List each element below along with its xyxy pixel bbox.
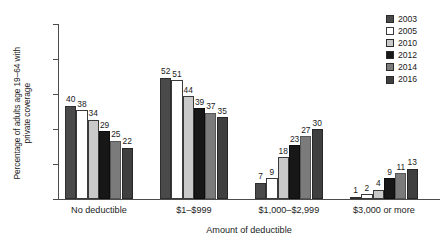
bar-group: 403834292522 (65, 24, 133, 199)
legend-label: 2012 (398, 51, 417, 60)
y-axis-tick (53, 199, 58, 200)
y-axis-title: Percentage of adults age 19–64 with priv… (12, 22, 32, 204)
bar (373, 190, 384, 199)
legend-swatch-icon (386, 27, 394, 35)
bar-value-label: 44 (175, 86, 201, 94)
legend-swatch-icon (386, 76, 394, 84)
legend-item[interactable]: 2012 (386, 49, 417, 61)
bar (255, 183, 266, 199)
bar (312, 129, 323, 199)
legend-item[interactable]: 2014 (386, 61, 417, 73)
bar (122, 148, 133, 199)
legend-label: 2014 (398, 63, 417, 72)
legend-swatch-icon (386, 15, 394, 23)
bar (88, 120, 99, 199)
bar (300, 136, 311, 199)
legend-label: 2005 (398, 27, 417, 36)
y-axis-tick (53, 59, 58, 60)
bar (194, 108, 205, 199)
legend-item[interactable]: 2003 (386, 13, 417, 25)
bar-value-label: 29 (92, 121, 118, 129)
legend-swatch-icon (386, 63, 394, 71)
bar (407, 169, 418, 199)
bar (395, 173, 406, 199)
bar (278, 157, 289, 199)
plot-area: 01530456075 4038342925225251443937357918… (58, 24, 440, 199)
bar (171, 80, 182, 199)
bar-value-label: 51 (164, 70, 190, 78)
legend-item[interactable]: 2016 (386, 73, 417, 85)
bar (384, 178, 395, 199)
bar-group: 7918232730 (255, 24, 323, 199)
bar (350, 197, 361, 199)
legend-swatch-icon (386, 39, 394, 47)
x-axis-category-label: $3,000 or more (319, 206, 448, 215)
bar-value-label: 38 (69, 100, 95, 108)
legend-label: 2003 (398, 15, 417, 24)
bar (205, 113, 216, 199)
legend-label: 2016 (398, 75, 417, 84)
bar (217, 117, 228, 199)
bar-chart: Percentage of adults age 19–64 with priv… (0, 0, 448, 244)
bar-value-label: 30 (304, 119, 330, 127)
x-axis-line (58, 199, 440, 200)
y-axis-tick (53, 164, 58, 165)
bar (266, 178, 277, 199)
bar (183, 96, 194, 199)
bar (99, 131, 110, 199)
bar-value-label: 13 (399, 158, 425, 166)
y-axis-tick (53, 129, 58, 130)
bar (289, 145, 300, 199)
bar-group: 525144393735 (160, 24, 228, 199)
legend-swatch-icon (386, 51, 394, 59)
bar (76, 110, 87, 199)
bar (160, 78, 171, 199)
bar-value-label: 22 (114, 137, 140, 145)
x-axis-title: Amount of deductible (58, 226, 440, 235)
legend-label: 2010 (398, 39, 417, 48)
legend-item[interactable]: 2005 (386, 25, 417, 37)
y-axis-line (58, 24, 59, 200)
legend: 200320052010201220142016 (386, 13, 417, 86)
bar (110, 141, 121, 199)
bar (361, 194, 372, 199)
bar (65, 106, 76, 199)
legend-item[interactable]: 2010 (386, 37, 417, 49)
bar-value-label: 34 (80, 109, 106, 117)
bar-value-label: 35 (209, 107, 235, 115)
y-axis-tick (53, 24, 58, 25)
